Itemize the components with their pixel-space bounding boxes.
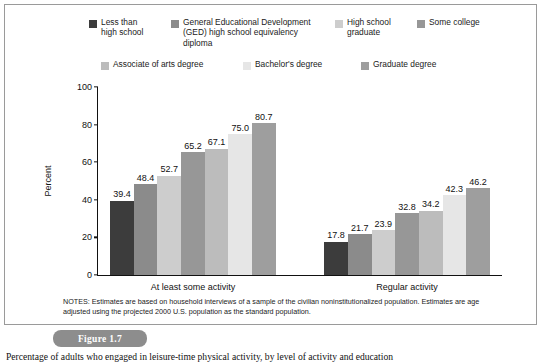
bar-value-label: 67.1	[208, 137, 226, 147]
y-tick-label: 20	[64, 232, 98, 242]
bar-slot: 75.0	[228, 87, 252, 275]
legend-item-2: Graduate degree	[361, 59, 461, 70]
legend-swatch-icon	[89, 20, 97, 28]
figure-number-label: Figure 1.7	[78, 334, 122, 344]
figure-number-tab: Figure 1.7	[53, 330, 147, 347]
bar-group: 17.821.723.932.834.242.346.2	[324, 87, 490, 275]
figure-caption: Percentage of adults who engaged in leis…	[6, 351, 536, 362]
legend-swatch-icon	[335, 20, 343, 28]
legend-item-0: Associate of arts degree	[101, 59, 226, 70]
bar[interactable]: 80.7	[252, 123, 276, 275]
legend-swatch-icon	[361, 62, 369, 70]
bar[interactable]: 21.7	[348, 234, 372, 275]
bar-value-label: 48.4	[137, 173, 155, 183]
bar-value-label: 32.8	[398, 202, 416, 212]
bar-slot: 23.9	[372, 87, 396, 275]
legend-item-2: High school graduate	[335, 17, 407, 38]
legend-item-0: Less than high school	[89, 17, 167, 38]
y-tick-label: 80	[64, 120, 98, 130]
bar[interactable]: 48.4	[134, 184, 158, 275]
y-tick-label: 40	[64, 195, 98, 205]
bar-value-label: 34.2	[422, 199, 440, 209]
y-tick-label: 60	[64, 157, 98, 167]
bar-value-label: 46.2	[469, 177, 487, 187]
bar-value-label: 80.7	[255, 112, 273, 122]
legend-item-3: Some college	[417, 17, 497, 28]
bar-slot: 46.2	[466, 87, 490, 275]
bar[interactable]: 46.2	[466, 188, 490, 275]
bar-slot: 48.4	[134, 87, 158, 275]
legend-swatch-icon	[171, 20, 179, 28]
bar-slot: 39.4	[110, 87, 134, 275]
bar-slot: 65.2	[181, 87, 205, 275]
legend-item-label: Graduate degree	[373, 59, 436, 69]
legend-swatch-icon	[101, 62, 109, 70]
legend-item-label: High school graduate	[347, 17, 391, 38]
bar-slot: 80.7	[252, 87, 276, 275]
figure-page: Less than high schoolGeneral Educational…	[0, 0, 543, 362]
figure-frame: Less than high schoolGeneral Educational…	[4, 4, 537, 325]
bar[interactable]: 52.7	[157, 176, 181, 275]
bar-group: 39.448.452.765.267.175.080.7	[110, 87, 276, 275]
bar-value-label: 21.7	[351, 223, 369, 233]
x-category-label: Regular activity	[324, 282, 490, 292]
y-tick-label: 100	[64, 82, 98, 92]
legend-item-1: Bachelor's degree	[243, 59, 343, 70]
bar[interactable]: 39.4	[110, 201, 134, 275]
bar[interactable]: 75.0	[228, 134, 252, 275]
bar-value-label: 75.0	[231, 123, 249, 133]
bar[interactable]: 67.1	[205, 149, 229, 275]
bar-value-label: 23.9	[375, 219, 393, 229]
bar-value-label: 42.3	[446, 184, 464, 194]
bar-slot: 17.8	[324, 87, 348, 275]
legend-item-1: General Educational Development (GED) hi…	[171, 17, 329, 48]
bar-slot: 52.7	[157, 87, 181, 275]
bar-slot: 42.3	[443, 87, 467, 275]
x-category-label: At least some activity	[110, 282, 276, 292]
legend-item-label: General Educational Development (GED) hi…	[183, 17, 311, 48]
bar[interactable]: 65.2	[181, 152, 205, 275]
legend-item-label: Bachelor's degree	[255, 59, 322, 69]
bar-slot: 21.7	[348, 87, 372, 275]
y-tick-label: 0	[64, 270, 98, 280]
bar-value-label: 17.8	[327, 230, 345, 240]
legend-item-label: Some college	[429, 17, 480, 27]
legend-swatch-icon	[243, 62, 251, 70]
legend-swatch-icon	[417, 20, 425, 28]
bar-value-label: 52.7	[160, 164, 178, 174]
bar-value-label: 39.4	[113, 189, 131, 199]
chart-notes: NOTES: Estimates are based on household …	[63, 297, 503, 316]
bar-value-label: 65.2	[184, 141, 202, 151]
legend-item-label: Associate of arts degree	[113, 59, 203, 69]
bar-slot: 34.2	[419, 87, 443, 275]
legend-item-label: Less than high school	[101, 17, 143, 38]
bar[interactable]: 17.8	[324, 242, 348, 275]
bar-slot: 67.1	[205, 87, 229, 275]
bar-slot: 32.8	[395, 87, 419, 275]
bar[interactable]: 42.3	[443, 195, 467, 275]
y-axis-label: Percent	[43, 165, 53, 196]
bar-series-container: 39.448.452.765.267.175.080.717.821.723.9…	[98, 87, 502, 275]
bar[interactable]: 34.2	[419, 211, 443, 275]
plot-area: Percent 020406080100 39.448.452.765.267.…	[97, 87, 502, 276]
bar[interactable]: 32.8	[395, 213, 419, 275]
bar[interactable]: 23.9	[372, 230, 396, 275]
